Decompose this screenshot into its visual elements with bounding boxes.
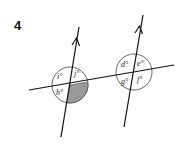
angle-label-h: h°	[56, 88, 64, 97]
angle-diagram: i° j° h° d° e° g° f°	[0, 0, 188, 151]
angle-label-e: e°	[137, 59, 145, 68]
angle-label-d: d°	[121, 60, 129, 69]
angle-label-f: f°	[137, 75, 143, 84]
angle-label-g: g°	[121, 77, 129, 86]
angle-label-j: j°	[73, 69, 80, 78]
angle-label-i: i°	[57, 72, 63, 81]
transversal-line	[29, 65, 174, 90]
